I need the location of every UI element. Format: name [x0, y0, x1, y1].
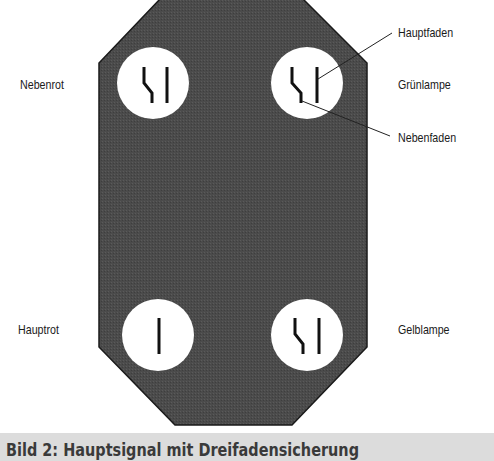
lamp-nebenrot [117, 47, 189, 119]
label-hauptfaden: Hauptfaden [398, 25, 453, 40]
label-nebenrot: Nebenrot [20, 77, 64, 92]
lamp-hauptrot [122, 299, 194, 371]
lamp-gelblampe [271, 299, 343, 371]
label-gruenlampe: Grünlampe [398, 77, 451, 92]
figure-caption-bar: Bild 2: Hauptsignal mit Dreifadensicheru… [0, 433, 494, 461]
label-gelblampe: Gelblampe [398, 322, 450, 337]
label-nebenfaden: Nebenfaden [398, 130, 456, 145]
lamp-gruenlampe [271, 47, 343, 119]
signal-diagram [0, 0, 494, 433]
figure-caption: Bild 2: Hauptsignal mit Dreifadensicheru… [6, 440, 359, 460]
label-hauptrot: Hauptrot [18, 322, 59, 337]
